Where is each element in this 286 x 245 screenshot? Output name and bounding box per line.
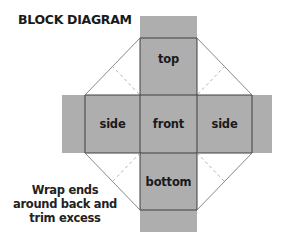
panel-label-front: front bbox=[140, 117, 197, 131]
caption-line: around back and bbox=[4, 197, 126, 211]
caption-line: Wrap ends bbox=[4, 183, 126, 197]
top-flap-strip bbox=[140, 16, 197, 38]
instruction-caption: Wrap ends around back and trim excess bbox=[4, 183, 126, 225]
panel-label-right-side: side bbox=[197, 117, 252, 131]
top-panel bbox=[140, 38, 197, 95]
diagram-title: BLOCK DIAGRAM bbox=[18, 12, 132, 27]
bottom-flap-strip bbox=[140, 210, 197, 232]
panel-label-left-side: side bbox=[85, 117, 140, 131]
caption-line: trim excess bbox=[4, 211, 126, 225]
block-diagram: BLOCK DIAGRAM top side front side bottom… bbox=[0, 0, 286, 245]
panel-label-top: top bbox=[140, 52, 197, 66]
panel-label-bottom: bottom bbox=[140, 175, 197, 189]
